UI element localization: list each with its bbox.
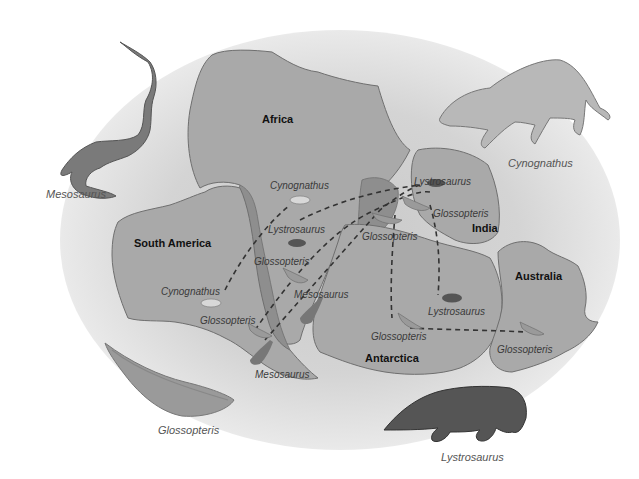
map-label-glossopteris-india: Glossopteris bbox=[433, 209, 489, 219]
caption-glossopteris: Glossopteris bbox=[158, 425, 219, 436]
continent-label-africa: Africa bbox=[262, 114, 293, 125]
continent-label-south-america: South America bbox=[134, 238, 211, 249]
map-label-mesosaurus-africa: Mesosaurus bbox=[294, 290, 348, 300]
continent-label-australia: Australia bbox=[515, 271, 562, 282]
map-label-lystrosaurus-antarctica: Lystrosaurus bbox=[428, 307, 485, 317]
mesosaurus-figure bbox=[61, 42, 156, 198]
lystrosaurus-figure bbox=[384, 386, 526, 441]
caption-cynognathus: Cynognathus bbox=[508, 158, 573, 169]
caption-mesosaurus: Mesosaurus bbox=[46, 189, 106, 200]
continent-label-india: India bbox=[472, 223, 498, 234]
glossopteris-figure bbox=[105, 343, 234, 416]
map-label-glossopteris-australia: Glossopteris bbox=[497, 345, 553, 355]
map-label-glossopteris-madagascar: Glossopteris bbox=[362, 232, 418, 242]
caption-lystrosaurus: Lystrosaurus bbox=[441, 452, 504, 463]
map-label-glossopteris-africa: Glossopteris bbox=[254, 257, 310, 267]
map-label-mesosaurus-sa: Mesosaurus bbox=[255, 370, 309, 380]
map-label-cynognathus-sa: Cynognathus bbox=[161, 287, 220, 297]
cynognathus-figure bbox=[439, 60, 609, 148]
map-label-lystrosaurus-india: Lystrosaurus bbox=[414, 177, 471, 187]
map-artwork bbox=[0, 0, 639, 479]
gondwana-fossil-map: Africa South America India Antarctica Au… bbox=[0, 0, 639, 479]
map-label-lystrosaurus-africa: Lystrosaurus bbox=[268, 225, 325, 235]
map-label-glossopteris-sa: Glossopteris bbox=[200, 316, 256, 326]
continent-label-antarctica: Antarctica bbox=[365, 353, 419, 364]
map-label-glossopteris-antarctica: Glossopteris bbox=[371, 332, 427, 342]
map-label-cynognathus-africa: Cynognathus bbox=[270, 181, 329, 191]
